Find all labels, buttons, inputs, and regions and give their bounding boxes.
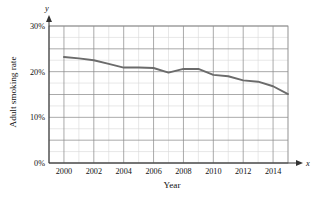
y-axis-tick-label: 10% — [30, 113, 45, 122]
x-axis-tick-label: 2000 — [56, 167, 72, 176]
data-series-group — [64, 57, 288, 94]
y-axis-tick-label: 20% — [30, 68, 45, 77]
smoking-rate-line-chart: x y 20002002200420062008201020122014 0%1… — [0, 0, 321, 201]
x-axis-tick-label: 2006 — [145, 167, 161, 176]
x-axis-arrowhead — [296, 160, 303, 166]
x-axis-variable-label: x — [305, 159, 310, 168]
smoking-rate-line-path — [64, 57, 288, 94]
y-axis-arrowhead — [46, 15, 52, 22]
x-axis-tick-label: 2010 — [205, 167, 221, 176]
chart-canvas: x y 20002002200420062008201020122014 0%1… — [0, 0, 321, 201]
x-axis-tick-label: 2012 — [235, 167, 251, 176]
y-axis-tick-label: 30% — [30, 22, 45, 31]
y-axis-variable-label: y — [44, 4, 49, 13]
x-axis-tick-label: 2014 — [265, 167, 281, 176]
x-axis-title: Year — [164, 180, 181, 190]
y-axis-tick-labels: 0%10%20%30% — [30, 22, 45, 168]
y-axis-tick-label: 0% — [34, 159, 45, 168]
x-axis-tick-label: 2004 — [116, 167, 132, 176]
y-axis: y — [44, 4, 52, 163]
y-axis-title: Adult smoking rate — [8, 57, 18, 128]
x-axis-tick-label: 2008 — [175, 167, 191, 176]
x-axis-tick-label: 2002 — [86, 167, 102, 176]
x-axis-tick-labels: 20002002200420062008201020122014 — [56, 167, 282, 176]
